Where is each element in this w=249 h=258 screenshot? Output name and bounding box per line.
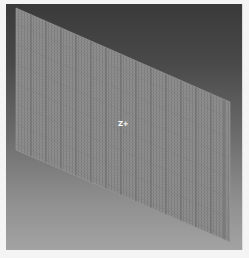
3d-viewport[interactable]: Z+ (6, 4, 243, 250)
window-frame: Z+ (0, 0, 249, 258)
axis-label-z: Z+ (118, 120, 128, 128)
